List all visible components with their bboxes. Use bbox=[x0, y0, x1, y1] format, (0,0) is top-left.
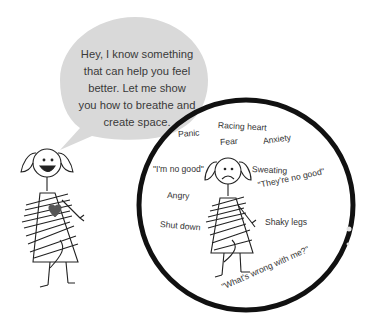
emotion-label: Shaky legs bbox=[265, 217, 307, 227]
emotion-label: Angry bbox=[167, 190, 190, 201]
emotion-label: "I'm no good" bbox=[153, 164, 204, 174]
sad-girl-figure bbox=[205, 158, 256, 277]
emotion-label: Panic bbox=[178, 128, 200, 139]
bubble-line: Hey, I know something bbox=[62, 46, 212, 63]
bubble-line: better. Let me show bbox=[62, 80, 212, 97]
speech-bubble-text: Hey, I know something that can help you … bbox=[62, 46, 212, 131]
happy-girl-figure bbox=[21, 149, 84, 287]
emotion-label: Fear bbox=[220, 136, 238, 147]
bubble-line: you how to breathe and bbox=[62, 97, 212, 114]
bubble-line: that can help you feel bbox=[62, 63, 212, 80]
